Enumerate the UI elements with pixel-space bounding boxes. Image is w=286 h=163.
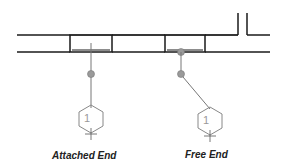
diagram-canvas: 1 1 Attached End Free End xyxy=(0,0,286,163)
tag-number-attached: 1 xyxy=(84,112,90,124)
hexagon-tag-attached-icon xyxy=(79,105,103,140)
leader-dot-icon xyxy=(178,71,185,78)
tag-number-free: 1 xyxy=(203,114,209,126)
hexagon-tag-free-icon xyxy=(198,107,222,142)
label-attached-end: Attached End xyxy=(52,150,116,161)
wall-tag-diagram xyxy=(0,0,286,163)
window-free xyxy=(165,35,205,52)
leader-free xyxy=(178,49,211,110)
wall xyxy=(17,13,270,52)
leader-dot-icon xyxy=(88,71,95,78)
label-free-end: Free End xyxy=(185,149,228,160)
